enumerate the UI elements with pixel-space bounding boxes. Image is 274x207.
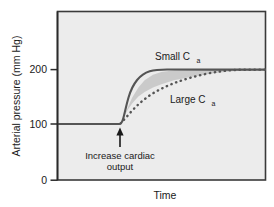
large-ca-label: Large C [170, 94, 206, 105]
y-axis-title: Arterial pressure (mm Hg) [10, 36, 22, 157]
arterial-pressure-chart: 200 100 0 Arterial pressure (mm Hg) Time… [0, 0, 274, 207]
small-ca-label: Small C [155, 51, 190, 62]
small-ca-label-subscript: a [197, 57, 201, 64]
x-axis-title: Time [154, 189, 177, 201]
figure-container: 200 100 0 Arterial pressure (mm Hg) Time… [0, 0, 274, 207]
y-tick-label-100: 100 [29, 118, 47, 130]
large-ca-label-subscript: a [212, 100, 216, 107]
y-tick-label-0: 0 [41, 174, 47, 186]
increase-cardiac-output-line2: output [107, 161, 134, 172]
increase-cardiac-output-line1: Increase cardiac [85, 150, 155, 161]
y-tick-label-200: 200 [29, 63, 47, 75]
